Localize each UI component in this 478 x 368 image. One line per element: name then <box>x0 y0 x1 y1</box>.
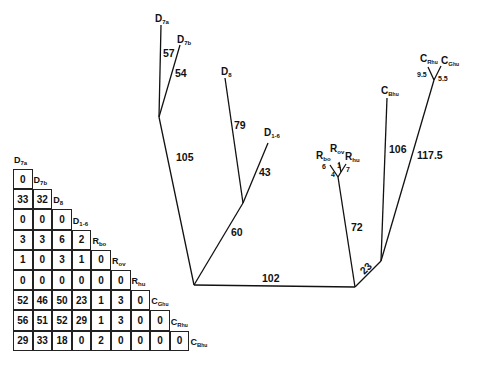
matrix-header: D8 <box>53 196 63 206</box>
matrix-cell: 32 <box>33 189 53 209</box>
matrix-cell: 0 <box>52 209 72 229</box>
branch-length-d7a: 57 <box>163 48 175 59</box>
taxon-label-cbhu: CBhu <box>381 86 399 97</box>
matrix-cell: 0 <box>170 331 190 351</box>
taxon-label-rhu: Rhu <box>345 152 360 163</box>
branch-cbhu <box>381 98 387 261</box>
matrix-cell: 1 <box>72 250 92 270</box>
branch-d8 <box>225 78 243 203</box>
matrix-cell: 33 <box>13 189 33 209</box>
branch-length-r-inner: 4 <box>331 171 335 178</box>
matrix-cell: 0 <box>111 331 131 351</box>
matrix-cell: 3 <box>33 230 53 250</box>
taxon-label-d7a: D7a <box>155 14 169 25</box>
matrix-cell: 52 <box>52 310 72 330</box>
matrix-cell: 0 <box>33 270 53 290</box>
taxon-label-cghu: CGhu <box>441 56 459 67</box>
branch-length-root: 102 <box>262 273 280 284</box>
branch-length-cghu: 5.5 <box>438 75 448 82</box>
matrix-cell: 23 <box>72 290 92 310</box>
taxon-label-rov: Rov <box>330 144 344 155</box>
matrix-cell: 0 <box>131 331 151 351</box>
matrix-cell: 0 <box>131 310 151 330</box>
matrix-cell: 0 <box>131 290 151 310</box>
taxon-label-d1-6: D1-6 <box>264 128 280 139</box>
matrix-cell: 3 <box>111 310 131 330</box>
matrix-cell: 56 <box>13 310 33 330</box>
matrix-cell: 2 <box>72 230 92 250</box>
matrix-header: Rhu <box>132 277 146 287</box>
matrix-header: D7a <box>14 156 27 166</box>
matrix-header: Rov <box>112 257 126 267</box>
matrix-cell: 0 <box>33 250 53 270</box>
matrix-cell: 29 <box>72 310 92 330</box>
matrix-cell: 50 <box>52 290 72 310</box>
branch-length-cbhu: 106 <box>389 144 407 155</box>
branch-length-d7b: 54 <box>175 68 187 79</box>
matrix-cell: 0 <box>91 270 111 290</box>
matrix-cell: 3 <box>52 250 72 270</box>
branch-d7a <box>159 25 161 117</box>
matrix-cell: 0 <box>13 270 33 290</box>
branch-length-d7-stem: 105 <box>176 152 194 163</box>
matrix-cell: 1 <box>13 250 33 270</box>
matrix-cell: 46 <box>33 290 53 310</box>
matrix-cell: 52 <box>13 290 33 310</box>
matrix-cell: 0 <box>111 270 131 290</box>
matrix-cell: 0 <box>91 250 111 270</box>
branch-root <box>194 285 355 287</box>
matrix-cell: 6 <box>52 230 72 250</box>
branch-length-rbo: 6 <box>322 163 326 170</box>
matrix-cell: 0 <box>52 270 72 290</box>
matrix-header: CGhu <box>151 297 168 307</box>
matrix-header: D1-6 <box>73 217 88 227</box>
matrix-cell: 2 <box>91 331 111 351</box>
matrix-cell: 0 <box>13 209 33 229</box>
matrix-cell: 51 <box>33 310 53 330</box>
branch-r-inner <box>338 172 341 177</box>
branch-d8-d1-6-stem <box>194 203 243 285</box>
branch-length-rov: 1 <box>337 162 341 169</box>
taxon-label-d7b: D7b <box>177 35 191 46</box>
matrix-cell: 0 <box>72 270 92 290</box>
matrix-cell: 3 <box>111 290 131 310</box>
matrix-header: Rbo <box>92 237 106 247</box>
matrix-cell: 0 <box>72 331 92 351</box>
matrix-header: CBhu <box>190 338 207 348</box>
branch-length-d1-6: 43 <box>259 167 271 178</box>
matrix-cell: 18 <box>52 331 72 351</box>
matrix-cell: 0 <box>33 209 53 229</box>
branch-d7-stem <box>159 117 194 285</box>
branch-length-crhu: 9.5 <box>417 71 427 78</box>
branch-length-rhu: 7 <box>346 166 350 173</box>
matrix-cell: 0 <box>150 310 170 330</box>
matrix-cell: 33 <box>33 331 53 351</box>
taxon-label-rbo: Rbo <box>316 151 331 162</box>
matrix-cell: 29 <box>13 331 33 351</box>
branch-crhu <box>428 67 434 80</box>
taxon-label-d8: D8 <box>221 67 232 78</box>
matrix-header: D7b <box>34 176 48 186</box>
matrix-header: CRhu <box>171 318 188 328</box>
branch-length-d8: 79 <box>234 120 246 131</box>
matrix-cell: 0 <box>13 169 33 189</box>
branch-length-r-stem: 72 <box>351 222 363 233</box>
matrix-cell: 3 <box>13 230 33 250</box>
branch-length-d8-d1-6-stem: 60 <box>231 227 243 238</box>
matrix-cell: 0 <box>150 331 170 351</box>
branch-crhu-cghu-stem <box>381 80 434 261</box>
matrix-cell: 1 <box>91 310 111 330</box>
matrix-cell: 1 <box>91 290 111 310</box>
branch-length-crhu-cghu-stem: 117.5 <box>417 150 443 161</box>
taxon-label-crhu: CRhu <box>420 54 438 65</box>
